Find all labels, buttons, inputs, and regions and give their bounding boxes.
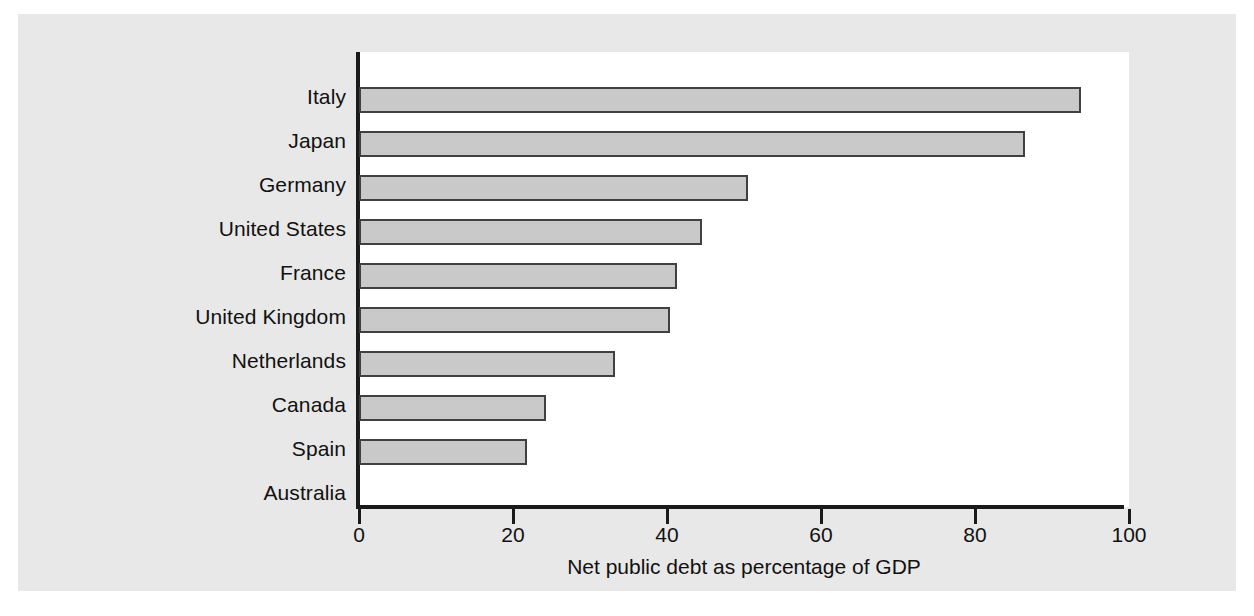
- bar-series: [359, 52, 1129, 507]
- bar: [359, 219, 702, 245]
- category-label: Germany: [26, 173, 346, 197]
- tick-label: 60: [809, 523, 832, 547]
- bar: [359, 395, 546, 421]
- bar-row: [359, 78, 1129, 122]
- tick-mark: [358, 509, 361, 524]
- figure: ItalyJapanGermanyUnited StatesFranceUnit…: [0, 0, 1254, 616]
- category-label: United Kingdom: [26, 305, 346, 329]
- tick-label: 0: [353, 523, 365, 547]
- category-label: Netherlands: [26, 349, 346, 373]
- category-label: Australia: [26, 481, 346, 505]
- bar-row: [359, 122, 1129, 166]
- category-label: Italy: [26, 85, 346, 109]
- category-label: Canada: [26, 393, 346, 417]
- category-axis-labels: ItalyJapanGermanyUnited StatesFranceUnit…: [18, 52, 346, 507]
- bar: [359, 439, 527, 465]
- figure-panel: ItalyJapanGermanyUnited StatesFranceUnit…: [18, 14, 1236, 591]
- tick-mark: [666, 509, 669, 524]
- x-axis-title: Net public debt as percentage of GDP: [359, 555, 1129, 579]
- bar-row: [359, 298, 1129, 342]
- bar-row: [359, 254, 1129, 298]
- category-label: Spain: [26, 437, 346, 461]
- category-label: United States: [26, 217, 346, 241]
- bar-row: [359, 342, 1129, 386]
- bar: [359, 307, 670, 333]
- tick-label: 40: [655, 523, 678, 547]
- tick-label: 100: [1111, 523, 1146, 547]
- tick-mark: [974, 509, 977, 524]
- tick-label: 20: [501, 523, 524, 547]
- category-label: Japan: [26, 129, 346, 153]
- tick-mark: [512, 509, 515, 524]
- tick-mark: [1128, 509, 1131, 524]
- bar: [359, 263, 677, 289]
- category-label: France: [26, 261, 346, 285]
- bar: [359, 175, 748, 201]
- tick-label: 80: [963, 523, 986, 547]
- x-axis-tick-labels: 020406080100: [359, 523, 1129, 553]
- bar-row: [359, 166, 1129, 210]
- bar-row: [359, 430, 1129, 474]
- bar-row: [359, 210, 1129, 254]
- tick-mark: [820, 509, 823, 524]
- bar: [359, 87, 1081, 113]
- bar: [359, 131, 1025, 157]
- bar: [359, 351, 615, 377]
- bar-row: [359, 386, 1129, 430]
